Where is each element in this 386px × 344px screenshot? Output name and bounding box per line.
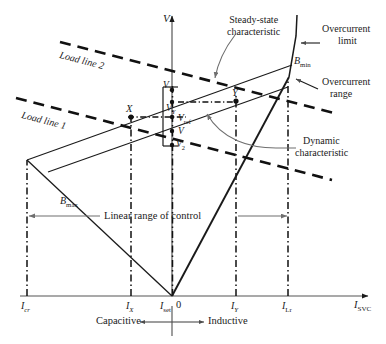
figure-canvas: V ISVC 0 Icr IX Iset IY ILr V1 VY Vref V…	[0, 0, 386, 344]
overcurrent-limit-line1: Overcurrent	[322, 24, 370, 34]
tick-ilr-sub: Lr	[285, 306, 291, 313]
bmax-sub: max	[66, 201, 78, 208]
tick-label-iy: IY	[231, 301, 238, 314]
inductive-label: Inductive	[208, 316, 248, 327]
dynamic-leader	[207, 114, 296, 148]
x-axis-label: ISVC	[354, 300, 371, 313]
bmin-label: Bmin	[294, 56, 311, 69]
capacitive-label: Capacitive	[96, 316, 141, 327]
level-vref-sub: ref	[184, 118, 191, 125]
level-v2-sub: 2	[182, 144, 185, 151]
y-axis-label: V	[163, 13, 170, 24]
tick-iset-sub: set	[163, 306, 171, 313]
steady-state-label: Steady-state characteristic	[227, 15, 280, 37]
overcurrent-limit-label: Overcurrent limit	[322, 24, 370, 46]
point-x-dot	[128, 114, 133, 119]
overcurrent-limit-line2: limit	[338, 36, 370, 46]
tick-label-ilr: ILr	[282, 301, 292, 314]
dynamic-label: Dynamic characteristic	[303, 136, 348, 158]
level-label-vref: Vref	[178, 114, 191, 125]
bmin-slope-line	[172, 77, 289, 296]
point-y-dot	[233, 98, 238, 103]
overcurrent-range-label: Overcurrent range	[322, 77, 370, 99]
tick-icr-sub: cr	[24, 306, 30, 313]
bmin-sub: min	[300, 61, 311, 68]
steady-state-label-line2: characteristic	[227, 27, 280, 37]
level-v-dot	[170, 129, 174, 133]
overcurrent-range-leader	[296, 79, 318, 89]
tick-label-iset: Iset	[160, 301, 171, 314]
tick-iy-sub: Y	[234, 306, 238, 313]
level-label-v1: V1	[163, 81, 172, 92]
steady-state-label-line1: Steady-state	[227, 15, 280, 25]
steady-state-leader	[215, 35, 235, 78]
origin-label: 0	[176, 300, 181, 311]
bmax-label: Bmax	[60, 196, 78, 209]
level-vy-sub: Y	[172, 108, 176, 115]
dynamic-label-line1: Dynamic	[303, 136, 348, 146]
polarity-arrows	[140, 306, 204, 336]
point-label-x: X	[126, 104, 132, 115]
level-v2-dot	[170, 143, 174, 147]
point-label-y: Y	[232, 88, 238, 99]
level-v1-sub: 1	[169, 85, 172, 92]
linear-range-label: Linear range of control	[104, 211, 201, 222]
tick-label-ix: IX	[126, 301, 134, 314]
tick-label-icr: Icr	[21, 301, 30, 314]
overcurrent-range-line2: range	[330, 89, 370, 99]
ordinate-lines	[27, 78, 288, 296]
diagram-svg	[0, 0, 386, 344]
level-vref-dot	[170, 115, 174, 119]
overcurrent-range-line1: Overcurrent	[322, 77, 370, 87]
level-label-v2: V2	[176, 140, 185, 151]
level-label-v: V	[178, 127, 184, 137]
level-label-vy: VY	[166, 104, 175, 115]
dynamic-label-line2: characteristic	[295, 148, 348, 158]
bmax-slope-line	[27, 160, 172, 296]
x-axis-label-sub: SVC	[358, 305, 372, 313]
tick-ix-sub: X	[129, 306, 133, 313]
